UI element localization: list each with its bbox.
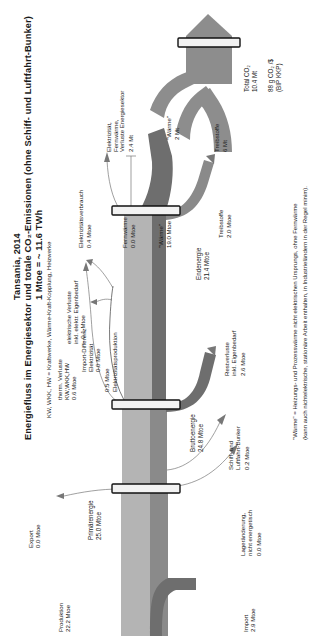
label-elektrizitaetsverbrauch: Elektrizitätsverbrauch	[78, 190, 85, 248]
label-co2-waerme: "Wärme"	[166, 116, 173, 140]
value-bunker: 0.2 Mtoe	[244, 446, 251, 470]
label-co2-intensity-basis: (BIP KKP)	[276, 63, 283, 92]
sankey-diagram-canvas: Tansania, 2014 Energiefluss im Energiese…	[0, 0, 321, 636]
footnote-line1: "Wärme" = Heizungs- und Prozesswärme nic…	[292, 203, 298, 440]
node-bar-primaerenergie	[112, 484, 180, 493]
label-total-co2: Total CO₂	[244, 65, 251, 92]
label-elektrische-verluste: elektrische Verluste inkl. elektr. Eigen…	[66, 281, 79, 344]
leader-elektrizitaetsverbrauch	[107, 160, 120, 210]
label-co2-treibstoffe: Treibstoffe	[214, 124, 221, 152]
node-bar-endenergie	[112, 206, 180, 215]
value-treibstoffe: 2.0 Mtoe	[226, 214, 233, 238]
label-lageraenderung: Lageränderung, nicht energetisch	[240, 510, 253, 556]
leader-elektrische-verluste	[92, 262, 113, 288]
value-import-differenz: 0.0 Mtoe	[95, 348, 102, 372]
value-bruttoenergie: 24.8 Mtoe	[198, 424, 205, 452]
flow-waerme	[140, 128, 173, 210]
arrowhead-export	[56, 493, 64, 499]
value-fernwaerme: 0.0 Mtoe	[130, 224, 137, 248]
value-endenergie: 21.4 Mtoe	[204, 252, 211, 280]
value-co2-waerme: 2 Mt	[174, 128, 181, 140]
label-primaerenergie: Primärenergie	[88, 500, 95, 540]
label-elektrizitaetsproduktion: Elektrizitätsproduktion	[112, 332, 119, 392]
footnote-line2: (kann auch nichtelektrische, stationäre …	[302, 186, 308, 440]
value-therm-verluste: 0.6 Mtoe	[71, 376, 78, 400]
leader-import-differenz	[96, 299, 112, 302]
label-waerme: "Wärme"	[158, 224, 165, 248]
label-endenergie: Endenergie	[196, 248, 203, 280]
leader-lageraenderung	[167, 452, 232, 487]
label-fernwaerme: Fernwärme	[122, 217, 129, 248]
value-elektrizitaetsproduktion: 0.5 Mtoe	[104, 368, 111, 392]
node-bar-bruttoenergie	[112, 400, 180, 409]
label-co2-energiesektor: Elektrizität, Fernwärme, Verluste Energi…	[106, 91, 126, 152]
value-primaerenergie: 25.0 Mtoe	[96, 512, 103, 540]
label-therm-verluste-line1: therm. Verluste KW,WKK,HW	[57, 359, 70, 400]
page-title-line2: Energiefluss im Energiesektor und totale…	[23, 16, 33, 440]
label-import-differenz: Import-Differenz Elektrizität	[81, 328, 94, 372]
node-bar-total-co2	[178, 38, 240, 47]
legend-abbreviations: KW, WKK, HW = Kraftwerke, Wärme-Kraft-Ko…	[46, 241, 53, 418]
page-title-line1: Tansania, 2014	[12, 233, 22, 300]
value-restverluste: 2.6 Mtoe	[240, 352, 247, 376]
value-export: 0.0 Mtoe	[35, 524, 42, 548]
label-co2-intensity: 88 g CO₂ /$	[268, 59, 275, 92]
label-bunker: Schiff- und Luftfahrt-Bunker	[228, 426, 241, 470]
value-waerme: 19.0 Mtoe	[166, 221, 173, 248]
value-elektrizitaetsverbrauch: 0.4 Mtoe	[86, 224, 93, 248]
value-total-co2: 10.4 Mt	[252, 71, 259, 92]
value-co2-treibstoffe: 6 Mt	[222, 140, 229, 152]
page-title-line3: 1 Mtoe = ~ 11.6 TWh	[34, 210, 44, 300]
value-co2-energiesektor: 2.4 Mt	[128, 135, 135, 152]
label-bruttoenergie: Bruttoenergie	[190, 414, 197, 452]
main-flow-trunk	[121, 212, 168, 636]
label-restverluste: Restverluste inkl. Eigenbedarf	[224, 331, 237, 376]
label-treibstoffe: Treibstoffe	[218, 210, 225, 238]
value-lageraenderung: 0.0 Mtoe	[256, 532, 263, 556]
value-import: 2.9 Mtoe	[250, 608, 257, 632]
value-produktion: 22.2 Mtoe	[65, 605, 72, 632]
